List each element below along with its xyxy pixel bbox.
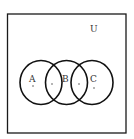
region-a-dot: [32, 85, 33, 86]
region-c-dot: [93, 87, 94, 88]
venn-diagram: U A B C: [0, 0, 134, 139]
set-a-circle: [20, 61, 62, 105]
set-a-label: A: [28, 74, 36, 84]
set-c-label: C: [90, 74, 97, 84]
region-bc-dot: [78, 83, 79, 84]
universe-label: U: [90, 24, 98, 34]
region-ab-dot: [51, 83, 52, 84]
set-b-label: B: [62, 74, 69, 84]
